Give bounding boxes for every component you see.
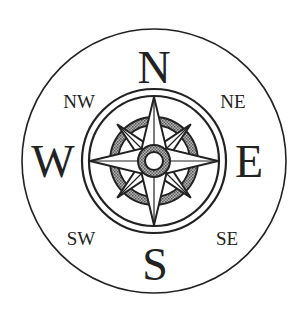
label-southeast: SE [216, 228, 238, 249]
label-northeast: NE [220, 91, 245, 112]
hub-center [145, 152, 163, 170]
label-south: S [142, 239, 168, 290]
compass-rose-figure: N S W E NW NE SW SE [0, 0, 303, 321]
label-east: E [235, 136, 263, 187]
label-north: N [137, 42, 170, 93]
label-southwest: SW [67, 228, 96, 249]
label-west: W [31, 136, 75, 187]
compass-rose-graphic: N S W E NW NE SW SE [0, 0, 303, 321]
label-northwest: NW [63, 91, 95, 112]
